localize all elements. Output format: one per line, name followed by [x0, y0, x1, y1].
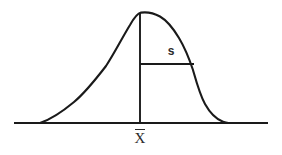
standard-deviation-label: s [163, 45, 179, 57]
mean-label: X [128, 129, 152, 146]
distribution-curve [40, 12, 229, 123]
distribution-figure: s X [0, 0, 282, 155]
mean-label-text: X [135, 130, 146, 146]
